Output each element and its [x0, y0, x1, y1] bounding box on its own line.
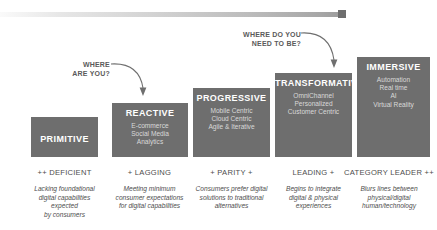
stage-title-primitive: PRIMITIVE — [31, 134, 98, 145]
stage-title-immersive: IMMERSIVE — [357, 62, 430, 73]
callout-where-do-you-need-to-be: WHERE DO YOUNEED TO BE? — [205, 30, 301, 48]
stage-subtitle-immersive: AutomationReal timeAIVirtual Reality — [357, 76, 430, 109]
top-rule-end-marker — [338, 10, 346, 18]
top-gradient-rule — [0, 12, 345, 17]
stage-title-progressive: PROGRESSIVE — [193, 93, 270, 104]
stage-box-reactive: REACTIVE E-commerceSocial MediaAnalytics — [112, 103, 188, 157]
stage-box-progressive: PROGRESSIVE Mobile CentricCloud CentricA… — [193, 88, 270, 157]
caption-body-immersive: Blurs lines betweenphysical/digitalhuman… — [341, 185, 437, 211]
caption-head-immersive: CATEGORY LEADER ++ — [341, 168, 437, 178]
maturity-diagram-canvas: PRIMITIVE REACTIVE E-commerceSocial Medi… — [0, 0, 437, 230]
caption-immersive: CATEGORY LEADER ++ Blurs lines betweenph… — [341, 168, 437, 211]
callout-arrow-where-are-you-icon — [110, 58, 158, 102]
callout-where-are-you: WHEREARE YOU? — [48, 60, 110, 78]
stage-box-immersive: IMMERSIVE AutomationReal timeAIVirtual R… — [357, 57, 430, 157]
stage-box-primitive: PRIMITIVE — [31, 117, 98, 157]
stage-subtitle-progressive: Mobile CentricCloud CentricAgile & Itera… — [193, 107, 270, 132]
stage-box-transformative: TRANSFORMATIVE OmniChannelPersonalizedCu… — [275, 73, 352, 157]
stage-subtitle-reactive: E-commerceSocial MediaAnalytics — [112, 122, 188, 147]
stage-subtitle-transformative: OmniChannelPersonalizedCustomer Centric — [275, 92, 352, 117]
stage-title-transformative: TRANSFORMATIVE — [275, 78, 352, 89]
stage-title-reactive: REACTIVE — [112, 108, 188, 119]
callout-arrow-where-do-you-need-to-be-icon — [300, 28, 350, 74]
